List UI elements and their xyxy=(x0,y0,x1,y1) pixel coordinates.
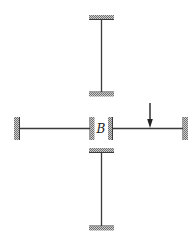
point-load-arrow-head xyxy=(147,119,153,128)
right-member-left-fixed-support xyxy=(108,117,112,140)
left-member-left-fixed-support xyxy=(14,117,19,140)
bottom-member-lower-fixed-support xyxy=(89,227,114,231)
top-member-lower-fixed-support xyxy=(89,93,114,97)
left-member xyxy=(14,117,95,140)
top-member-upper-fixed-support xyxy=(89,15,114,19)
left-member-right-fixed-support xyxy=(91,117,95,140)
right-member-right-fixed-support xyxy=(184,117,189,140)
diagram-canvas: B xyxy=(0,0,194,242)
top-member xyxy=(89,15,114,97)
bottom-member-upper-fixed-support xyxy=(89,148,114,152)
joint-label-b: B xyxy=(96,122,106,136)
frame-diagram: B xyxy=(0,0,194,242)
point-load-arrow xyxy=(147,103,153,128)
bottom-member xyxy=(89,148,114,231)
